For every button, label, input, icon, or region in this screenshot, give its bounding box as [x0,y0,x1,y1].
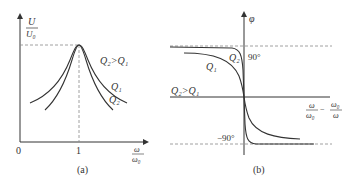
a-x-label-den: ω₀ [132,155,141,164]
figure-b: φ 90° −90° Q₂ Q₁ Q₂>Q₁ ω ω₀ − ω₀ ω (b) [170,13,342,176]
b-caption: (b) [253,164,265,176]
a-origin-label: 0 [16,145,21,156]
b-x-minus: − [320,105,325,114]
a-relation-label: Q₂>Q₁ [100,55,128,66]
b-relation-label: Q₂>Q₁ [171,85,199,96]
b-y-label: φ [249,13,255,24]
b-x-label-2-den: ω [333,111,339,120]
b-x-label-2-num: ω₀ [331,100,340,109]
a-x-label-num: ω [134,145,140,154]
b-upper-label: 90° [248,52,261,62]
figure-a: U U₀ Q₂>Q₁ Q₁ Q₂ 0 1 ω ω₀ (a) [16,16,146,176]
a-q1-label: Q₁ [111,81,122,92]
b-lower-label: −90° [217,133,235,143]
a-y-label-num: U [28,16,36,27]
resonance-diagram: U U₀ Q₂>Q₁ Q₁ Q₂ 0 1 ω ω₀ (a) φ 90° −90°… [0,0,353,184]
b-x-label-1-den: ω₀ [306,111,315,120]
b-q2-label: Q₂ [229,52,240,63]
b-curve-q1 [184,53,300,139]
a-x-tick-1: 1 [76,145,81,156]
b-q1-label: Q₁ [206,61,217,72]
a-q2-label: Q₂ [109,94,120,105]
a-y-label-den: U₀ [26,29,36,39]
a-caption: (a) [77,164,88,176]
b-x-label-1-num: ω [309,101,315,110]
